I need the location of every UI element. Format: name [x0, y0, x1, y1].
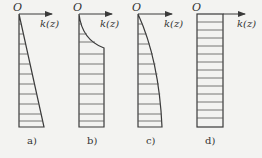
origin-label: O [192, 1, 201, 14]
hatch-lines [79, 24, 104, 121]
distribution-outline [138, 14, 162, 127]
hatch-lines [197, 22, 223, 118]
panel-d: O k(z) d) [192, 1, 256, 146]
diagram-canvas: O k(z) a) O k(z) [0, 0, 262, 158]
axis-label: k(z) [237, 18, 256, 29]
origin-label: O [73, 1, 82, 14]
panel-label: d) [205, 135, 215, 146]
origin-label: O [132, 1, 141, 14]
origin-label: O [13, 1, 22, 14]
panel-label: a) [27, 135, 37, 146]
distribution-outline [79, 14, 104, 127]
panel-b: O k(z) b) [73, 1, 119, 146]
distribution-outline [19, 14, 44, 127]
axis-label: k(z) [164, 18, 183, 29]
panel-label: c) [146, 135, 156, 146]
panel-label: b) [87, 135, 97, 146]
panel-a: O k(z) a) [13, 1, 59, 146]
hatch-lines [138, 24, 162, 121]
panel-c: O k(z) c) [132, 1, 183, 146]
axis-label: k(z) [40, 18, 59, 29]
axis-label: k(z) [100, 18, 119, 29]
